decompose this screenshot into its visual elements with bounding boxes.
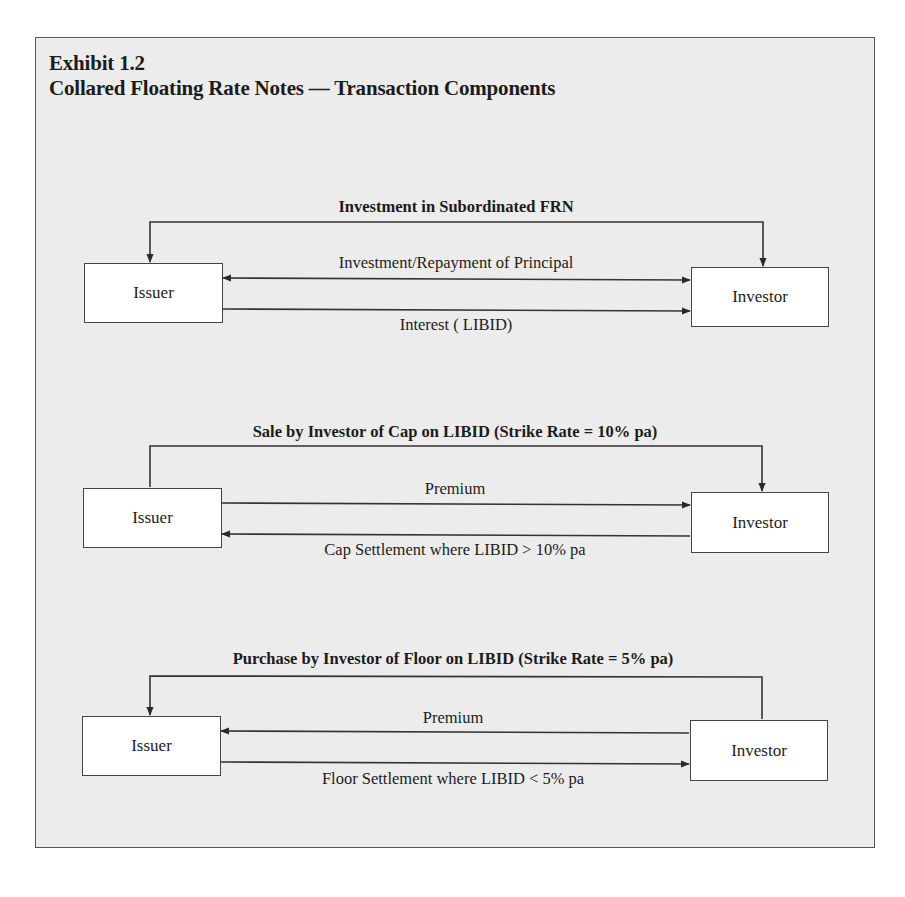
section-1-flow-2-label: Interest ( LIBID) [400, 315, 513, 335]
cap-settlement-arrow [222, 534, 690, 536]
issuer-label: Issuer [133, 283, 174, 303]
section-3-title: Purchase by Investor of Floor on LIBID (… [233, 649, 674, 669]
issuer-label: Issuer [131, 736, 172, 756]
issuer-box: Issuer [82, 716, 221, 776]
floor-settlement-arrow [221, 762, 689, 764]
floor-premium-arrow [221, 731, 689, 733]
section-2-flow-2-label: Cap Settlement where LIBID > 10% pa [324, 540, 585, 560]
investor-label: Investor [731, 741, 787, 761]
section-3-flow-1-label: Premium [423, 708, 484, 728]
interest-flow-arrow [223, 309, 690, 311]
issuer-label: Issuer [132, 508, 173, 528]
investor-label: Investor [732, 287, 788, 307]
principal-flow-arrow [223, 278, 690, 280]
section-2-flow-1-label: Premium [425, 479, 486, 499]
issuer-box: Issuer [83, 488, 222, 548]
investor-label: Investor [732, 513, 788, 533]
cap-premium-arrow [222, 503, 690, 505]
section-2-title: Sale by Investor of Cap on LIBID (Strike… [253, 422, 658, 442]
section-1-title: Investment in Subordinated FRN [338, 197, 573, 217]
investor-box: Investor [691, 267, 829, 327]
issuer-box: Issuer [84, 263, 223, 323]
section-3-flow-2-label: Floor Settlement where LIBID < 5% pa [322, 769, 584, 789]
investor-box: Investor [691, 492, 829, 553]
investor-box: Investor [690, 720, 828, 781]
section-1-flow-1-label: Investment/Repayment of Principal [339, 253, 574, 273]
